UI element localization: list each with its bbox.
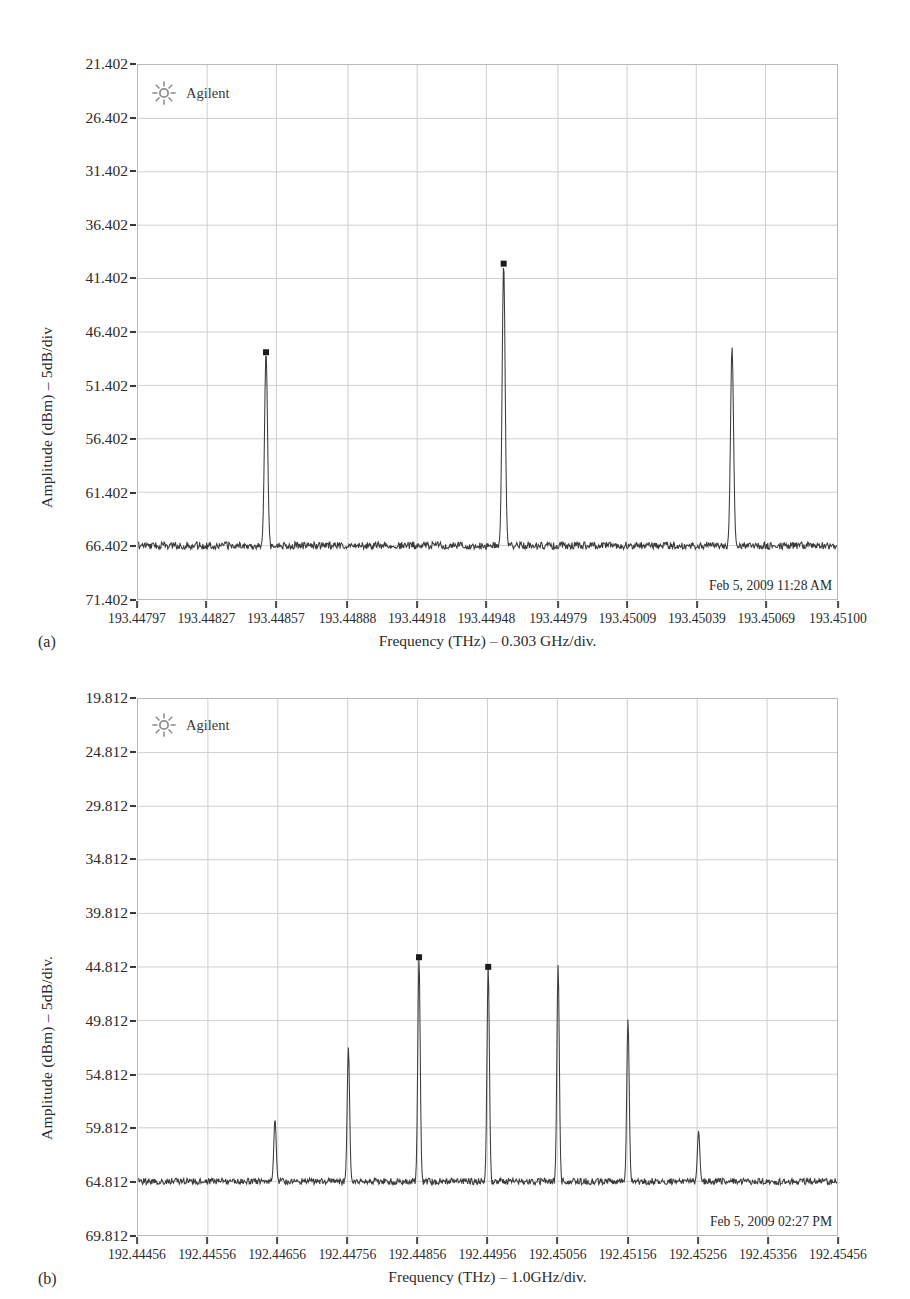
x-tick-label: 192.44556 [178, 1236, 236, 1263]
figure-a-y-axis-title: Amplitude (dBm) – 5dB/div [38, 208, 56, 508]
x-tick-label: 192.44656 [248, 1236, 306, 1263]
figure-a-brand-label: Agilent [186, 85, 230, 102]
y-tick-mark [130, 331, 136, 333]
figure-a-caption: (a) [38, 633, 56, 651]
x-tick-mark [206, 1237, 208, 1244]
x-tick-mark [557, 1237, 559, 1244]
x-tick-label: 193.45069 [737, 600, 795, 627]
figure-b-y-axis-title: Amplitude (dBm) – 5dB/div. [38, 830, 56, 1140]
y-tick-mark [130, 1074, 136, 1076]
y-tick-mark [130, 858, 136, 860]
x-tick-label: 193.44948 [457, 600, 515, 627]
x-tick-mark [346, 1237, 348, 1244]
y-tick-mark [130, 751, 136, 753]
y-tick-mark [130, 277, 136, 279]
y-tick-label: 51.402 [85, 377, 137, 395]
x-tick-mark [696, 601, 698, 608]
figure-b-trace [138, 699, 837, 1235]
x-tick-mark [837, 1237, 839, 1244]
x-tick-label: 193.44857 [247, 600, 305, 627]
y-tick-label: 64.812 [85, 1173, 137, 1191]
y-tick-label: 61.402 [85, 484, 137, 502]
x-tick-label: 192.44756 [318, 1236, 376, 1263]
figure-b-plot-canvas [137, 698, 838, 1236]
x-tick-mark [767, 1237, 769, 1244]
x-tick-label: 192.45256 [669, 1236, 727, 1263]
x-tick-label: 193.44797 [108, 600, 166, 627]
x-tick-mark [275, 601, 277, 608]
x-tick-label: 193.44827 [178, 600, 236, 627]
figure-b-brand-label: Agilent [186, 717, 230, 734]
x-tick-mark [627, 1237, 629, 1244]
y-tick-mark [130, 697, 136, 699]
y-tick-label: 24.812 [85, 743, 137, 761]
figure-b-plot-area: Agilent Feb 5, 2009 02:27 PM 19.81224.81… [137, 698, 838, 1236]
x-tick-mark [276, 1237, 278, 1244]
y-tick-label: 59.812 [85, 1119, 137, 1137]
y-tick-mark [130, 912, 136, 914]
x-tick-mark [626, 601, 628, 608]
agilent-sun-icon [151, 712, 177, 738]
figure-a-brand: Agilent [151, 80, 230, 106]
figure-a-plot-canvas [137, 64, 838, 600]
y-tick-mark [130, 492, 136, 494]
y-tick-mark [130, 170, 136, 172]
y-tick-mark [130, 438, 136, 440]
agilent-sun-icon [151, 80, 177, 106]
y-tick-mark [130, 1127, 136, 1129]
x-tick-label: 192.44456 [108, 1236, 166, 1263]
x-tick-mark [765, 601, 767, 608]
figure-b-brand: Agilent [151, 712, 230, 738]
y-tick-mark [130, 224, 136, 226]
x-tick-label: 193.45009 [599, 600, 657, 627]
x-tick-label: 192.45456 [809, 1236, 867, 1263]
x-tick-mark [485, 601, 487, 608]
x-tick-label: 192.44956 [459, 1236, 517, 1263]
y-tick-label: 54.812 [85, 1066, 137, 1084]
x-tick-mark [697, 1237, 699, 1244]
y-tick-mark [130, 1181, 136, 1183]
x-tick-mark [837, 601, 839, 608]
x-tick-mark [347, 601, 349, 608]
x-tick-label: 193.44979 [529, 600, 587, 627]
y-tick-label: 36.402 [85, 216, 137, 234]
figure-b-x-axis-title: Frequency (THz) – 1.0GHz/div. [137, 1268, 838, 1286]
x-tick-label: 193.45100 [809, 600, 867, 627]
figure-b-timestamp: Feb 5, 2009 02:27 PM [710, 1214, 832, 1230]
x-tick-mark [136, 1237, 138, 1244]
y-tick-mark [130, 1020, 136, 1022]
y-tick-label: 19.812 [85, 689, 137, 707]
figure-b: Amplitude (dBm) – 5dB/div. Agilent [0, 650, 910, 1299]
y-tick-mark [130, 545, 136, 547]
y-tick-mark [130, 63, 136, 65]
y-tick-label: 31.402 [85, 162, 137, 180]
x-tick-label: 193.44918 [388, 600, 446, 627]
x-tick-mark [487, 1237, 489, 1244]
figure-a-x-axis-title: Frequency (THz) – 0.303 GHz/div. [137, 632, 838, 650]
y-tick-label: 21.402 [85, 55, 137, 73]
x-tick-label: 192.45156 [599, 1236, 657, 1263]
x-tick-mark [136, 601, 138, 608]
figure-a-timestamp: Feb 5, 2009 11:28 AM [709, 578, 832, 594]
x-tick-label: 192.45356 [739, 1236, 797, 1263]
figure-a-trace [138, 65, 837, 599]
x-tick-mark [416, 1237, 418, 1244]
y-tick-label: 34.812 [85, 850, 137, 868]
figure-a: Amplitude (dBm) – 5dB/div Agilent [0, 0, 910, 670]
figure-b-caption: (b) [38, 1270, 57, 1288]
y-tick-label: 49.812 [85, 1012, 137, 1030]
y-tick-mark [130, 805, 136, 807]
x-tick-label: 193.44888 [319, 600, 377, 627]
figure-a-plot-area: Agilent Feb 5, 2009 11:28 AM 21.40226.40… [137, 64, 838, 600]
y-tick-label: 56.402 [85, 430, 137, 448]
y-tick-mark [130, 966, 136, 968]
y-tick-mark [130, 117, 136, 119]
y-tick-label: 29.812 [85, 797, 137, 815]
y-tick-label: 39.812 [85, 904, 137, 922]
y-tick-label: 26.402 [85, 109, 137, 127]
y-tick-mark [130, 385, 136, 387]
y-tick-label: 66.402 [85, 537, 137, 555]
x-tick-label: 193.45039 [668, 600, 726, 627]
x-tick-mark [557, 601, 559, 608]
x-tick-label: 192.45056 [529, 1236, 587, 1263]
